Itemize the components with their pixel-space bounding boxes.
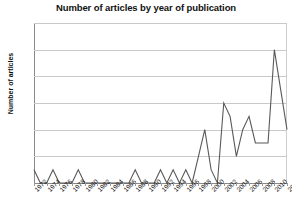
line-series bbox=[34, 23, 287, 183]
chart-figure: Number of articles by year of publicatio… bbox=[0, 0, 292, 216]
chart-title: Number of articles by year of publicatio… bbox=[0, 2, 292, 13]
plot-area: 024681012 bbox=[34, 23, 287, 183]
y-axis-label: Number of articles bbox=[7, 48, 14, 120]
x-axis-ticks: 1972197419761978198019821984198619881990… bbox=[34, 183, 287, 216]
